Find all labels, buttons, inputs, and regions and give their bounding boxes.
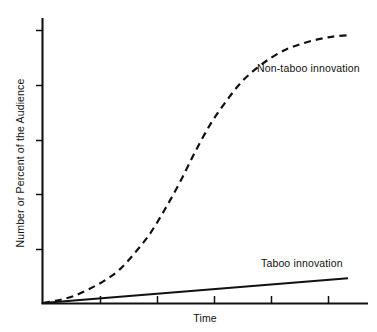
chart-canvas: Non-taboo innovation Taboo innovation Ti… bbox=[0, 0, 377, 332]
diffusion-curve-chart: Non-taboo innovation Taboo innovation Ti… bbox=[0, 0, 377, 332]
y-axis-title: Number or Percent of the Audience bbox=[14, 79, 26, 248]
series-label-taboo-innovation: Taboo innovation bbox=[261, 257, 343, 269]
x-axis-title: Time bbox=[193, 312, 217, 324]
series-label-non-taboo-innovation: Non-taboo innovation bbox=[257, 62, 360, 74]
